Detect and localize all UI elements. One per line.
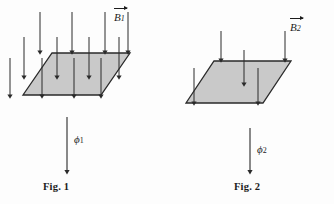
flux-label-phi2: ϕ2 [257, 144, 267, 155]
flux-label-phi1-sub: 1 [80, 136, 84, 145]
flux-label-phi1: ϕ1 [74, 134, 84, 145]
vector-arrow-icon [290, 18, 303, 19]
field-label-b2: B2 [290, 22, 301, 33]
panel-1-group [10, 12, 130, 173]
field-label-b1-base: B [114, 11, 121, 23]
field-label-b1: B1 [114, 12, 125, 23]
surface-plane-1 [23, 53, 130, 95]
figure-canvas [0, 0, 334, 204]
panel-2-group [186, 31, 291, 173]
field-label-b1-sub: 1 [121, 14, 125, 23]
flux-label-phi2-sub: 2 [263, 146, 267, 155]
vector-arrow-icon [114, 8, 127, 9]
field-label-b2-base: B [290, 21, 297, 33]
caption-fig-1: Fig. 1 [43, 182, 69, 193]
physics-figure-magnetic-flux: B1 ϕ1 Fig. 1 B2 ϕ2 Fig. 2 [0, 0, 334, 204]
caption-fig-2: Fig. 2 [234, 182, 260, 193]
field-label-b2-sub: 2 [297, 24, 301, 33]
surface-plane-2 [186, 61, 291, 103]
